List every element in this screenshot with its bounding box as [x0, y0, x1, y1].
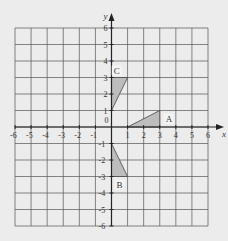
- x-tick-label: -6: [10, 131, 17, 140]
- y-tick-label: -6: [99, 222, 106, 231]
- shape-label-b: B: [117, 180, 123, 190]
- shape-label-a: A: [166, 114, 173, 124]
- x-tick-label: -2: [74, 131, 81, 140]
- x-tick-label: -1: [90, 131, 97, 140]
- x-tick-label: -3: [58, 131, 65, 140]
- y-tick-label: 3: [104, 74, 108, 83]
- shape-label-c: C: [114, 66, 120, 76]
- y-tick-label: 2: [104, 90, 108, 99]
- x-tick-label: -4: [42, 131, 49, 140]
- grid-svg: yx0-6-5-4-3-2-1123456654321-1-2-3-4-5-6A…: [0, 0, 228, 241]
- y-tick-label: -3: [99, 173, 106, 182]
- y-axis-label: y: [103, 11, 108, 21]
- coordinate-grid-diagram: yx0-6-5-4-3-2-1123456654321-1-2-3-4-5-6A…: [0, 0, 228, 241]
- y-tick-label: 5: [104, 41, 108, 50]
- x-tick-label: 2: [142, 131, 146, 140]
- x-tick-label: 4: [174, 131, 178, 140]
- x-tick-label: 5: [190, 131, 194, 140]
- y-axis-arrow-icon: [109, 13, 115, 21]
- y-tick-label: -5: [99, 206, 106, 215]
- x-tick-label: 6: [206, 131, 210, 140]
- y-tick-label: -2: [99, 156, 106, 165]
- y-tick-label: 6: [104, 24, 108, 33]
- x-axis-label: x: [221, 129, 226, 139]
- origin-label: 0: [105, 116, 109, 125]
- y-tick-label: 1: [104, 107, 108, 116]
- y-tick-label: 4: [104, 57, 108, 66]
- x-tick-label: 3: [158, 131, 162, 140]
- x-tick-label: 1: [126, 131, 130, 140]
- y-tick-label: -1: [99, 140, 106, 149]
- x-tick-label: -5: [26, 131, 33, 140]
- y-tick-label: -4: [99, 189, 106, 198]
